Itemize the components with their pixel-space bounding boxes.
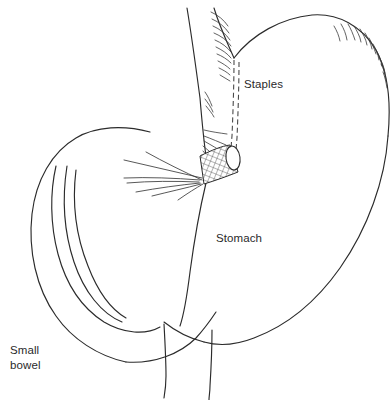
label-staples: Staples <box>244 77 283 92</box>
stomach-diagram-figure: Staples Stomach Small bowel <box>0 0 392 400</box>
staple-line <box>231 60 239 160</box>
fundus-shading-hatching <box>334 24 387 88</box>
mid-esophagus-hatching <box>205 92 214 117</box>
mesenteric-vessels <box>124 152 203 200</box>
anatomy-illustration <box>0 0 392 400</box>
duodenum <box>164 324 212 400</box>
esophagus-hatching <box>211 12 231 81</box>
small-bowel-loop <box>31 128 216 363</box>
label-stomach: Stomach <box>216 231 262 246</box>
label-small-bowel: Small bowel <box>10 343 41 373</box>
